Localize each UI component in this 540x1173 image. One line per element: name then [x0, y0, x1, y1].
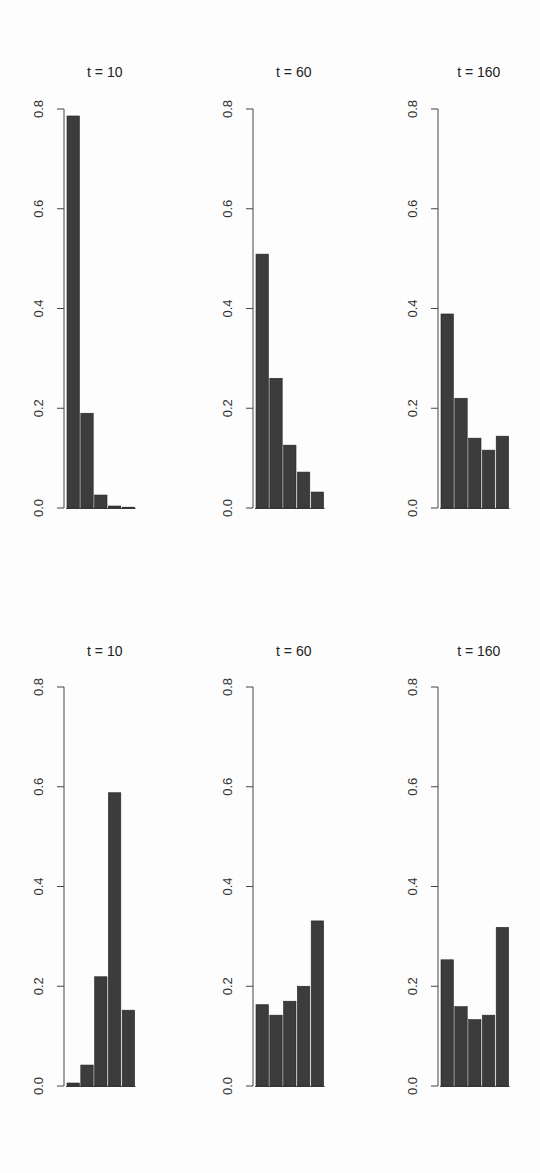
histogram-bar-4	[108, 506, 120, 508]
histogram-bar-5	[311, 921, 323, 1086]
y-tick-label: 0.0	[31, 499, 46, 517]
figure-background	[0, 0, 540, 1173]
histogram-bar-5	[496, 436, 508, 508]
histogram-bar-2	[270, 378, 282, 508]
histogram-bar-5	[122, 1010, 134, 1086]
panel-title: t = 160	[457, 64, 500, 80]
y-tick-label: 0.0	[31, 1077, 46, 1095]
histogram-bar-5	[122, 507, 134, 508]
histogram-bar-4	[108, 793, 120, 1086]
histogram-bar-1	[67, 116, 79, 508]
histogram-bar-1	[441, 960, 453, 1086]
histogram-bar-3	[95, 495, 107, 508]
histogram-bar-1	[256, 1005, 268, 1086]
y-tick-label: 0.4	[220, 299, 235, 317]
y-tick-label: 0.6	[405, 778, 420, 796]
histogram-bar-4	[297, 472, 309, 508]
y-tick-label: 0.2	[405, 977, 420, 995]
histogram-bar-3	[95, 977, 107, 1086]
y-tick-label: 0.0	[220, 499, 235, 517]
y-tick-label: 0.2	[220, 399, 235, 417]
y-tick-label: 0.0	[405, 1077, 420, 1095]
histogram-bar-5	[496, 927, 508, 1086]
y-tick-label: 0.4	[220, 877, 235, 895]
histogram-bar-1	[67, 1083, 79, 1086]
panel-title: t = 60	[276, 643, 312, 659]
y-tick-label: 0.6	[220, 200, 235, 218]
y-tick-label: 0.6	[31, 200, 46, 218]
histogram-bar-5	[311, 492, 323, 508]
y-tick-label: 0.2	[31, 977, 46, 995]
y-tick-label: 0.4	[405, 877, 420, 895]
y-tick-label: 0.8	[31, 678, 46, 696]
y-tick-label: 0.8	[405, 100, 420, 118]
histogram-bar-4	[482, 450, 494, 508]
y-tick-label: 0.4	[31, 299, 46, 317]
panel-title: t = 10	[87, 643, 123, 659]
histogram-bar-2	[81, 1065, 93, 1086]
histogram-bar-1	[441, 314, 453, 508]
y-tick-label: 0.0	[405, 499, 420, 517]
histogram-bar-1	[256, 254, 268, 508]
y-tick-label: 0.0	[220, 1077, 235, 1095]
y-tick-label: 0.8	[220, 678, 235, 696]
y-tick-label: 0.4	[31, 877, 46, 895]
y-tick-label: 0.2	[31, 399, 46, 417]
histogram-bar-2	[455, 398, 467, 508]
y-tick-label: 0.6	[220, 778, 235, 796]
histogram-bar-2	[81, 413, 93, 508]
histogram-bar-2	[455, 1007, 467, 1086]
histogram-grid-figure: t = 100.00.20.40.60.8t = 600.00.20.40.60…	[0, 0, 540, 1173]
y-tick-label: 0.8	[405, 678, 420, 696]
y-tick-label: 0.2	[405, 399, 420, 417]
y-tick-label: 0.6	[405, 200, 420, 218]
histogram-bar-2	[270, 1015, 282, 1086]
panel-title: t = 10	[87, 64, 123, 80]
y-tick-label: 0.2	[220, 977, 235, 995]
histogram-bar-3	[284, 445, 296, 508]
panel-title: t = 160	[457, 643, 500, 659]
histogram-bar-3	[469, 438, 481, 508]
y-tick-label: 0.8	[220, 100, 235, 118]
y-tick-label: 0.6	[31, 778, 46, 796]
histogram-bar-4	[297, 986, 309, 1086]
histogram-bar-4	[482, 1015, 494, 1086]
histogram-bar-3	[469, 1020, 481, 1086]
panel-title: t = 60	[276, 64, 312, 80]
y-tick-label: 0.8	[31, 100, 46, 118]
y-tick-label: 0.4	[405, 299, 420, 317]
histogram-bar-3	[284, 1001, 296, 1086]
